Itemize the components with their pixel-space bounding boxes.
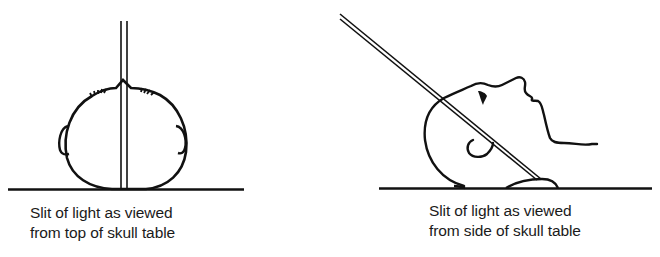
ear [468, 140, 493, 157]
light-slit-vertical [121, 21, 127, 189]
head-outline [66, 80, 187, 189]
head-profile [425, 77, 597, 186]
top-view-panel: Slit of light as viewed from top of skul… [0, 0, 330, 257]
head-rest-contact [506, 179, 558, 188]
caption-line-1: Slit of light as viewed [30, 203, 175, 223]
eye [478, 91, 487, 105]
light-slit-diagonal [340, 14, 541, 180]
side-view-panel: Slit of light as viewed from side of sku… [330, 0, 660, 257]
caption-line-1: Slit of light as viewed [429, 201, 581, 221]
caption-top-view: Slit of light as viewed from top of skul… [30, 203, 175, 243]
caption-line-2: from side of skull table [429, 221, 581, 241]
caption-side-view: Slit of light as viewed from side of sku… [429, 201, 581, 241]
caption-line-2: from top of skull table [30, 223, 175, 243]
